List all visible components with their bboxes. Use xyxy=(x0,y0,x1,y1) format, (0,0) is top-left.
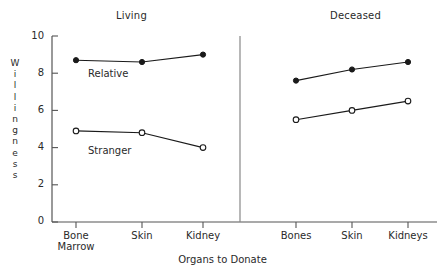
chart-container: Living Deceased W i l l i n g n e s s 10… xyxy=(0,0,445,274)
x-tick-label-line1: Kidneys xyxy=(388,230,427,241)
data-point-living-stranger-bone-marrow xyxy=(73,128,79,134)
x-tick-label-deceased-bones: Bones xyxy=(281,230,312,241)
data-point-living-relative-kidney xyxy=(200,52,205,57)
x-tick-label-line1: Skin xyxy=(341,230,362,241)
x-tick-label-line2: Marrow xyxy=(58,241,95,252)
data-point-deceased-relative-kidneys xyxy=(405,59,410,64)
x-axis-title: Organs to Donate xyxy=(0,254,445,265)
data-point-deceased-relative-bones xyxy=(293,78,298,83)
data-point-deceased-stranger-skin xyxy=(349,108,355,114)
data-point-deceased-relative-skin xyxy=(349,67,354,72)
x-tick-label-line1: Kidney xyxy=(186,230,220,241)
data-point-living-relative-bone-marrow xyxy=(73,58,78,63)
data-point-living-stranger-skin xyxy=(139,130,145,136)
x-tick-label-living-skin: Skin xyxy=(131,230,152,241)
x-tick-label-line1: Bones xyxy=(281,230,312,241)
x-tick-label-living-kidney: Kidney xyxy=(186,230,220,241)
x-tick-label-line1: Bone xyxy=(63,230,88,241)
x-tick-label-deceased-skin: Skin xyxy=(341,230,362,241)
data-point-living-stranger-kidney xyxy=(200,145,206,151)
series-annotation-relative: Relative xyxy=(88,68,128,79)
x-tick-label-living-bone-marrow: Bone Marrow xyxy=(58,230,95,252)
data-point-deceased-stranger-kidneys xyxy=(405,98,411,104)
data-point-living-relative-skin xyxy=(139,59,144,64)
x-tick-label-deceased-kidneys: Kidneys xyxy=(388,230,427,241)
x-tick-label-line1: Skin xyxy=(131,230,152,241)
series-annotation-stranger: Stranger xyxy=(88,145,131,156)
data-point-deceased-stranger-bones xyxy=(293,117,299,123)
